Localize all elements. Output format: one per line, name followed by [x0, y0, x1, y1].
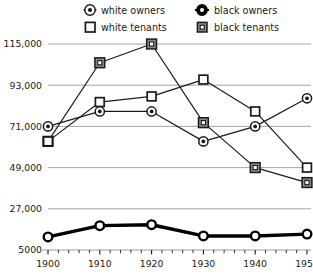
x-tick-label: 1940 [243, 258, 267, 269]
y-tick-label: 5000 [18, 244, 42, 255]
data-point-marker [303, 230, 312, 239]
data-series-layer [43, 39, 312, 241]
series-black-owners [44, 220, 312, 241]
filled-circle-icon [195, 5, 209, 15]
y-tick-label: 49,000 [9, 162, 42, 173]
legend-entry-black-tenants[interactable]: black tenants [197, 22, 279, 33]
legend-label-black-tenants: black tenants [214, 22, 279, 33]
data-point-marker [44, 137, 53, 146]
legend-label-black-owners: black owners [214, 5, 277, 16]
legend-entry-white-tenants[interactable]: white tenants [85, 22, 166, 33]
y-tick-label: 27,000 [9, 203, 42, 214]
y-tick-label: 93,000 [9, 80, 42, 91]
data-point-marker [95, 98, 104, 107]
data-point-marker [199, 137, 208, 146]
x-tick-label: 1910 [88, 258, 112, 269]
legend-label-white-tenants: white tenants [101, 22, 167, 33]
data-point-marker [251, 232, 260, 241]
data-point-marker [147, 107, 156, 116]
y-tick-label: 71,000 [9, 121, 42, 132]
data-point-marker [302, 178, 312, 188]
y-axis-labels: 500027,00049,00071,00093,000115,000 [4, 38, 43, 255]
legend-entry-white-owners[interactable]: white owners [84, 5, 165, 16]
data-point-marker [44, 233, 53, 242]
series-line [48, 80, 307, 168]
open-square-icon [85, 22, 95, 32]
data-point-marker [199, 75, 208, 84]
series-line [48, 44, 307, 183]
data-point-marker [199, 232, 208, 241]
x-axis-labels: 190019101920193019401950 [36, 258, 313, 269]
series-black-tenants [43, 39, 312, 187]
data-point-marker [147, 39, 157, 49]
data-point-marker [199, 118, 209, 128]
nested-square-icon [197, 22, 207, 32]
series-white-tenants [44, 75, 312, 172]
data-point-marker [303, 163, 312, 172]
legend-entry-black-owners[interactable]: black owners [195, 5, 277, 16]
x-axis [42, 250, 311, 255]
data-point-marker [95, 58, 105, 68]
series-white-owners [43, 94, 311, 146]
data-point-marker [250, 163, 260, 173]
data-point-marker [95, 107, 104, 116]
x-tick-label: 1930 [192, 258, 216, 269]
data-point-marker [251, 107, 260, 116]
chart-legend: white owners black owners white tenants [84, 5, 279, 33]
data-point-marker [43, 122, 52, 131]
grid-lines [48, 44, 311, 209]
x-tick-label: 1900 [36, 258, 60, 269]
data-point-marker [147, 220, 156, 229]
data-point-marker [302, 94, 311, 103]
y-tick-label: 115,000 [4, 38, 43, 49]
series-line [48, 225, 307, 237]
bullseye-circle-icon [84, 5, 97, 15]
chart-container: white owners black owners white tenants [0, 0, 313, 278]
legend-label-white-owners: white owners [101, 5, 165, 16]
data-point-marker [147, 92, 156, 101]
series-line [48, 98, 307, 141]
x-tick-label: 1920 [140, 258, 164, 269]
line-chart: white owners black owners white tenants [0, 0, 313, 278]
data-point-marker [251, 122, 260, 131]
data-point-marker [96, 221, 105, 230]
x-tick-label: 1950 [295, 258, 313, 269]
